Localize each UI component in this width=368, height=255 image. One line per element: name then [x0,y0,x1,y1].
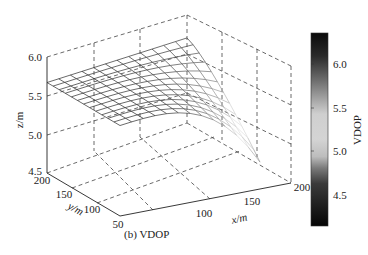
y-tick: 50 [113,218,125,230]
y-axis-label: y/m [65,199,86,218]
figure-caption: (b) VDOP [124,228,169,240]
x-axis-label: x/m [229,211,248,226]
x-tick: 150 [244,195,261,207]
z-axis-label: z/m [13,111,25,128]
y-tick: 100 [84,203,101,215]
y-axis-ticks: 200 150 100 50 [34,174,124,230]
vdop-surface-plot: 6.0 5.5 5.0 4.5 z/m 200 150 100 50 y/m 1… [0,0,368,255]
surface-mesh [47,38,260,162]
z-axis-ticks: 6.0 5.5 5.0 4.5 [28,51,42,177]
x-tick: 200 [294,181,311,193]
x-tick: 100 [196,207,213,219]
z-tick: 5.5 [28,90,42,102]
z-tick: 6.0 [28,51,42,63]
colorbar: 6.0 5.5 5.0 4.5 VDOP [311,33,363,226]
colorbar-tick: 6.0 [333,58,347,70]
z-tick: 5.0 [28,129,42,141]
axes-lines [47,57,291,216]
colorbar-tick: 5.5 [333,102,347,114]
colorbar-label: VDOP [351,115,363,145]
y-tick: 200 [34,174,51,186]
y-tick: 150 [56,188,73,200]
colorbar-tick: 4.5 [333,189,347,201]
x-axis-ticks: 100 150 200 [196,181,311,219]
colorbar-tick: 5.0 [333,145,347,157]
axes-grid [47,15,291,210]
